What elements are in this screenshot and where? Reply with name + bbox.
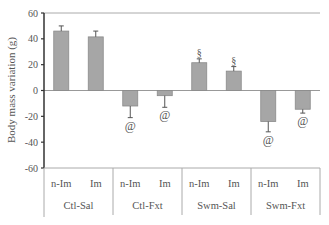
x-subcategory-label: Im [297,178,309,189]
y-tick-label: 0 [33,85,38,96]
x-group-label: Ctl-Sal [64,200,94,211]
x-group-label: Swm-Sal [197,200,236,211]
y-tick-label: -40 [25,137,38,148]
significance-annotation: @ [159,108,170,122]
x-subcategory-label: n-Im [258,178,278,189]
bar [295,91,310,110]
bars: @@§§@@ [54,26,311,147]
x-axis-table: n-ImImCtl-Saln-ImImCtl-Fxtn-ImImSwm-Saln… [44,168,320,217]
y-axis: 6040200-20-40-60 [25,8,44,174]
y-tick-label: -60 [25,163,38,174]
x-subcategory-label: Im [228,178,240,189]
x-group-label: Swm-Fxt [266,200,305,211]
y-tick-label: 40 [28,33,38,44]
x-group-label: Ctl-Fxt [132,200,162,211]
x-subcategory-label: Im [159,178,171,189]
significance-annotation: @ [263,133,274,147]
bar [54,31,69,90]
x-subcategory-label: Im [90,178,102,189]
bar [157,91,172,96]
y-tick-label: -20 [25,111,38,122]
significance-annotation: § [197,47,202,58]
significance-annotation: @ [297,114,308,128]
y-axis-label: Body mass variation (g) [5,37,18,143]
significance-annotation: @ [125,119,136,133]
y-tick-label: 20 [28,59,38,70]
x-subcategory-label: n-Im [51,178,71,189]
bar-chart: 6040200-20-40-60 @@§§@@ n-ImImCtl-Saln-I… [0,0,329,225]
bar [123,91,138,107]
bar [88,37,103,91]
x-subcategory-label: n-Im [120,178,140,189]
bar [192,63,207,91]
x-subcategory-label: n-Im [189,178,209,189]
chart-frame [44,13,320,91]
y-tick-label: 60 [28,8,38,19]
bar [226,71,241,90]
significance-annotation: § [231,55,236,66]
bar [261,91,276,122]
